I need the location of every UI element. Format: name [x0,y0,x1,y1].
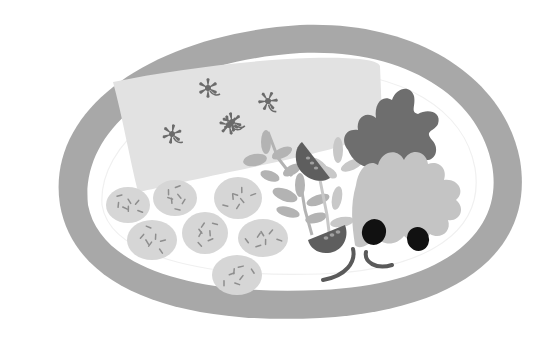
herb-leaf [333,137,343,163]
potato [238,219,288,257]
potato [182,212,228,254]
plate-svg [0,0,557,349]
potato [153,180,197,216]
potato [106,187,150,223]
herb-leaf [295,173,305,197]
potato [212,255,262,295]
potato [127,220,177,260]
plate-illustration: Plate with fish fillet, potatoes, herbs,… [0,0,557,349]
potato [214,177,262,219]
herb-leaf [261,130,271,154]
